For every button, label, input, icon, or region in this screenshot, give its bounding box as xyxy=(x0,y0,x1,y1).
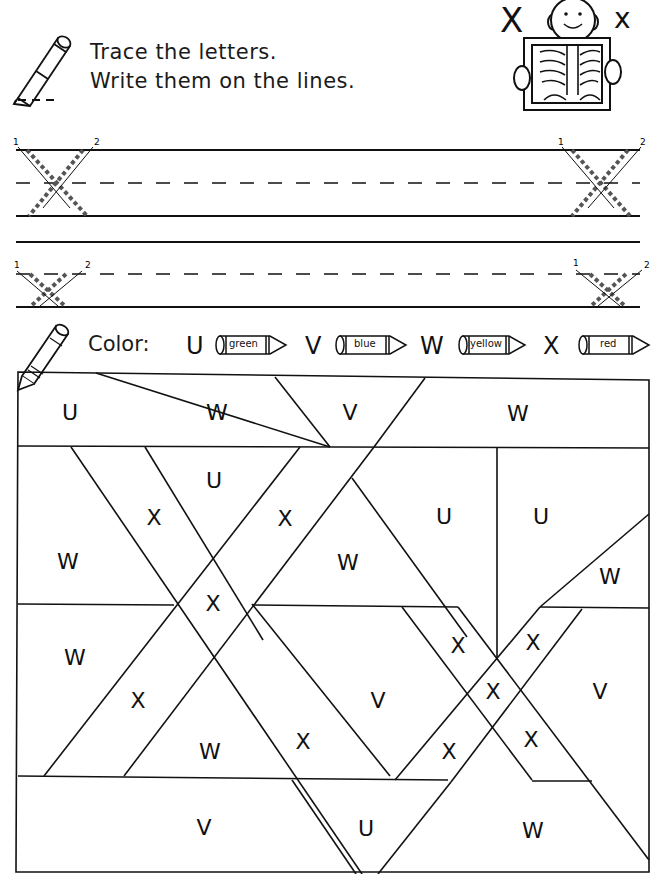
puzzle-cell-letter[interactable]: W xyxy=(199,739,221,764)
puzzle-cell-letter[interactable]: V xyxy=(196,815,211,840)
puzzle-cell-letter[interactable]: X xyxy=(146,505,161,530)
puzzle-cell-letter[interactable]: U xyxy=(533,504,549,529)
puzzle-cell-letter[interactable]: X xyxy=(130,688,145,713)
puzzle-cell-letter[interactable]: W xyxy=(522,818,544,843)
puzzle-cell-letter[interactable]: U xyxy=(206,468,222,493)
puzzle-cell-letter[interactable]: W xyxy=(57,549,79,574)
puzzle-cell-letter[interactable]: U xyxy=(358,816,374,841)
puzzle-cell-letter[interactable]: W xyxy=(64,645,86,670)
puzzle-cell-letter[interactable]: X xyxy=(205,591,220,616)
puzzle-cell-letter[interactable]: X xyxy=(450,633,465,658)
puzzle-cell-letter[interactable]: U xyxy=(436,504,452,529)
puzzle-cell-letter[interactable]: W xyxy=(507,401,529,426)
puzzle-cell-letter[interactable]: W xyxy=(337,550,359,575)
puzzle-cell-letter[interactable]: W xyxy=(206,400,228,425)
puzzle-cell-letter[interactable]: X xyxy=(295,729,310,754)
puzzle-cell-letter[interactable]: X xyxy=(485,679,500,704)
puzzle-cell-letter[interactable]: X xyxy=(277,506,292,531)
puzzle-cell-letter[interactable]: V xyxy=(592,679,607,704)
puzzle-cell-letter[interactable]: U xyxy=(62,400,78,425)
puzzle-cell-letter[interactable]: V xyxy=(342,400,357,425)
puzzle-cell-letter[interactable]: X xyxy=(441,739,456,764)
puzzle-cell-letter[interactable]: X xyxy=(523,727,538,752)
puzzle-cell-letter[interactable]: X xyxy=(525,630,540,655)
color-by-letter-puzzle[interactable] xyxy=(0,0,659,874)
puzzle-cell-letter[interactable]: V xyxy=(370,688,385,713)
puzzle-cell-letter[interactable]: W xyxy=(599,564,621,589)
